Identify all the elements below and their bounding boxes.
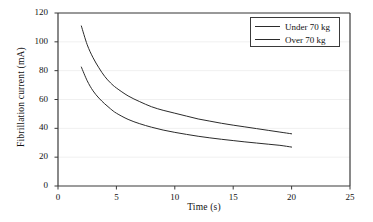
x-tick-label: 15 — [219, 192, 247, 202]
x-tick-label: 20 — [278, 192, 306, 202]
fibrillation-current-chart: 020406080100120 0510152025 Fibrillation … — [0, 0, 373, 222]
legend-item-over-70kg: Over 70 kg — [255, 33, 326, 46]
legend-item-under-70kg: Under 70 kg — [255, 20, 330, 33]
legend-swatch-icon — [255, 39, 280, 40]
chart-legend: Under 70 kg Over 70 kg — [250, 17, 340, 47]
x-tick-label: 5 — [102, 192, 130, 202]
x-tick-label: 25 — [336, 192, 364, 202]
x-axis-title: Time (s) — [58, 202, 350, 212]
y-axis-title: Fibrillation current (mA) — [16, 22, 26, 172]
y-tick-label: 0 — [20, 180, 48, 190]
legend-label: Over 70 kg — [285, 35, 326, 45]
x-tick-label: 0 — [44, 192, 72, 202]
x-tick-label: 10 — [161, 192, 189, 202]
legend-swatch-icon — [255, 26, 280, 27]
series-line — [81, 67, 291, 147]
y-tick-label: 120 — [20, 7, 48, 17]
legend-label: Under 70 kg — [285, 22, 330, 32]
